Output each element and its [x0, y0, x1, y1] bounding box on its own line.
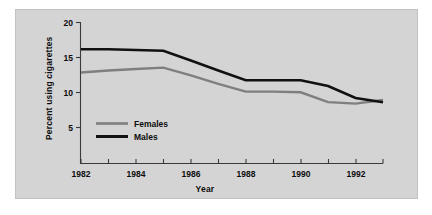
series-line-males — [81, 49, 383, 102]
chart-legend: Females Males — [96, 119, 168, 142]
legend-label-females: Females — [134, 119, 168, 129]
x-tick-label-1990: 1990 — [292, 169, 311, 179]
y-axis-title: Percent using cigarettes — [44, 36, 54, 140]
x-tick-label-1982: 1982 — [72, 169, 91, 179]
line-chart: Percent using cigarettes 20 15 10 5 1982… — [0, 0, 432, 215]
x-tick-label-1984: 1984 — [127, 169, 146, 179]
chart-figure: Percent using cigarettes 20 15 10 5 1982… — [0, 0, 432, 215]
x-tick-label-1992: 1992 — [347, 169, 366, 179]
y-tick-label-10: 10 — [64, 88, 74, 98]
legend-label-males: Males — [134, 132, 158, 142]
y-tick-label-20: 20 — [64, 18, 74, 28]
x-tick-label-1986: 1986 — [182, 169, 201, 179]
series-line-females — [81, 68, 383, 104]
y-tick-label-15: 15 — [64, 53, 74, 63]
y-tick-label-5: 5 — [68, 123, 73, 133]
x-tick-label-1988: 1988 — [237, 169, 256, 179]
x-axis-title: Year — [196, 184, 215, 194]
